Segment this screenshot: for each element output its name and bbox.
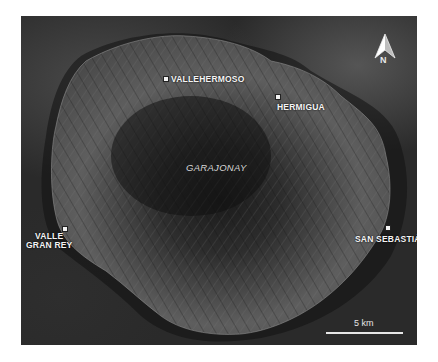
vallehermoso-marker (163, 76, 169, 82)
place-label-vallehermoso: VALLEHERMOSO (171, 75, 245, 84)
north-label: N (380, 55, 387, 65)
island-terrain (21, 16, 417, 345)
region-label-garajonay: GARAJONAY (186, 162, 247, 173)
place-label-hermigua: HERMIGUA (277, 103, 325, 112)
scale-bar (326, 332, 403, 334)
satellite-map: VALLEHERMOSO HERMIGUA GARAJONAY VALLE GR… (21, 16, 417, 345)
san-sebastian-marker (385, 225, 391, 231)
place-label-san-sebastian: SAN SEBASTIÁN (355, 235, 417, 244)
place-label-gran-rey: GRAN REY (26, 241, 72, 250)
hermigua-marker (275, 94, 281, 100)
scale-bar-label: 5 km (354, 318, 374, 328)
place-label-valle-gran-rey: VALLE GRAN REY (26, 232, 72, 250)
